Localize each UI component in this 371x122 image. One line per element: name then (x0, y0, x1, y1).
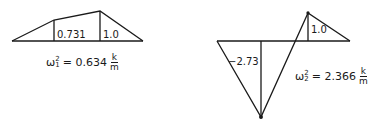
mode-1-ordinate-label-right: 1.0 (103, 30, 119, 40)
unit-denominator: m (359, 77, 368, 86)
frequency-value: 0.634 (75, 57, 107, 68)
mode-2-bottom-node (260, 116, 263, 119)
unit-denominator: m (110, 63, 119, 72)
omega-symbol: ω (46, 57, 55, 68)
equals-sign: = (63, 57, 72, 68)
subscript: 1 (55, 63, 59, 69)
unit-fraction: k m (359, 67, 368, 86)
mode-2-ordinate-label-positive: 1.0 (311, 25, 327, 35)
mode-2-frequency-equation: ω 2 2 = 2.366 k m (295, 67, 368, 86)
exponent-subscript: 2 1 (55, 57, 59, 69)
unit-fraction: k m (110, 53, 119, 72)
mode-2-peak-node (307, 12, 309, 14)
mode-1-ordinate-label-left: 0.731 (57, 30, 86, 40)
mode-2-ordinate-label-negative: −2.73 (228, 57, 259, 67)
omega-symbol: ω (295, 71, 304, 82)
subscript: 2 (304, 77, 308, 83)
equals-sign: = (312, 71, 321, 82)
mode-1-frequency-equation: ω 2 1 = 0.634 k m (46, 53, 119, 72)
frequency-value: 2.366 (324, 71, 356, 82)
exponent-subscript: 2 2 (304, 71, 308, 83)
